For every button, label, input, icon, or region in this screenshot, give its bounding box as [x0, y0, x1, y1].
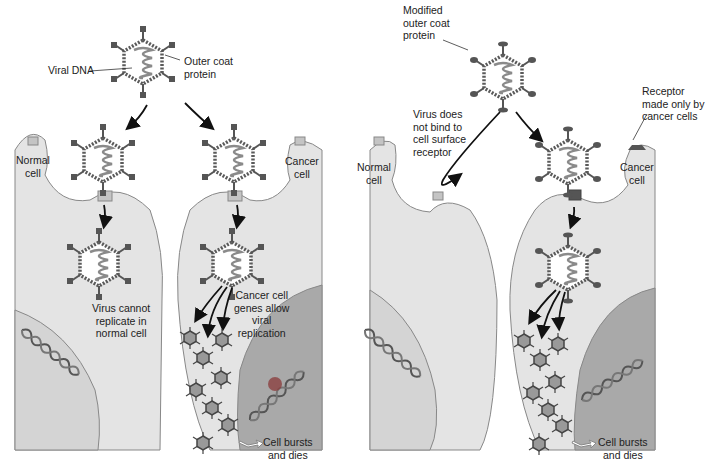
label-cancer-cell-right: Cancercell [620, 161, 654, 186]
virus-modified-top [470, 42, 536, 113]
label-normal-cell-right: Normalcell [357, 161, 391, 186]
virus-bound-normal [71, 124, 135, 196]
label-modified-outer-coat: Modifiedouter coatprotein [403, 4, 450, 42]
label-normal-cell-left: Normalcell [16, 154, 50, 179]
mutation-marker [268, 377, 282, 391]
label-viral-dna: Viral DNA [48, 64, 94, 77]
label-cancer-genes-allow: Cancer cellgenes allowviralreplication [234, 289, 289, 339]
virus-bound-cancer-right [535, 127, 601, 198]
left-normal-cell [15, 134, 163, 450]
label-virus-does-not-bind: Virus doesnot bind tocell surfacerecepto… [413, 108, 466, 158]
label-outer-coat-protein: Outer coatprotein [184, 55, 233, 80]
label-virus-cannot-replicate: Virus cannotreplicate innormal cell [92, 302, 150, 340]
label-cancer-cell-left: Cancercell [285, 155, 319, 180]
virus-top-left [111, 26, 175, 98]
label-receptor-cancer-only: Receptormade only bycancer cells [642, 85, 704, 123]
label-cell-bursts-left: Cell burstsand dies [263, 436, 313, 461]
right-cancer-cell [510, 145, 655, 450]
label-cell-bursts-right: Cell burstsand dies [598, 436, 648, 461]
virus-bound-cancer [202, 124, 266, 196]
diagram-canvas [0, 0, 717, 472]
